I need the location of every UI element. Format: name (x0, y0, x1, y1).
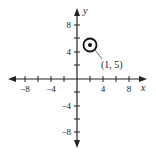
x-tick-label: −4 (46, 84, 56, 94)
y-tick-label: 4 (67, 47, 72, 57)
point-label: (1, 5) (101, 59, 123, 71)
y-tick-label: −8 (61, 127, 71, 137)
x-tick-label: −8 (20, 84, 30, 94)
x-axis-label: x (140, 82, 146, 93)
x-tick-label: 8 (127, 84, 132, 94)
data-point (88, 43, 92, 47)
x-tick-label: 4 (101, 84, 106, 94)
coordinate-plane: −8 −4 4 8 8 4 −4 −8 x y (1, 5) (0, 0, 156, 163)
y-axis-down-arrow-icon (74, 140, 80, 148)
y-tick-label: 8 (67, 20, 72, 30)
leader-line (95, 50, 102, 59)
y-axis-label: y (82, 5, 88, 16)
y-axis-up-arrow-icon (74, 8, 80, 16)
y-tick-label: −4 (61, 101, 71, 111)
x-axis-left-arrow-icon (8, 76, 16, 82)
